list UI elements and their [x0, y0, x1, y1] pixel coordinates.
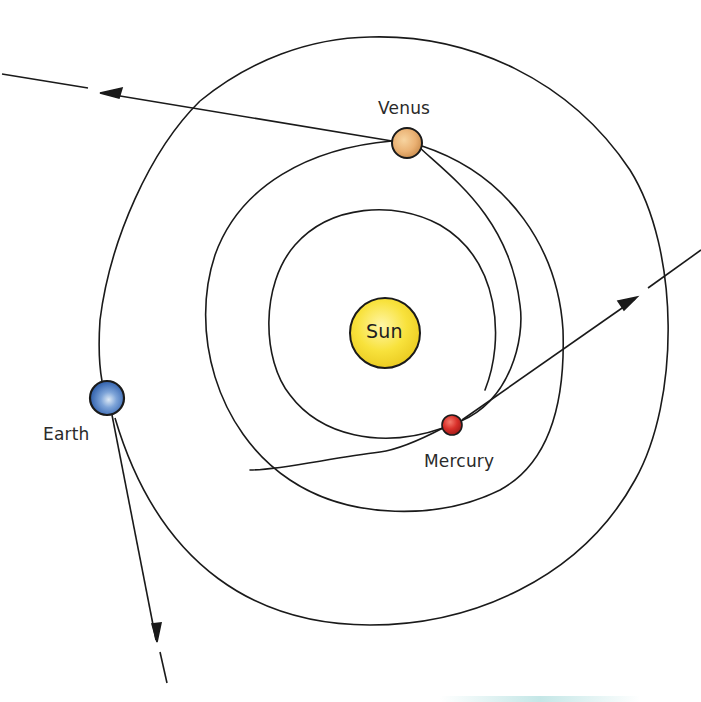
arrow-down-icon — [152, 623, 161, 642]
mercury-icon — [442, 415, 462, 435]
middle-spiral-segment — [420, 148, 521, 421]
venus-escape-trajectory — [2, 74, 392, 141]
earth-ring-upper — [99, 101, 200, 381]
earth-label: Earth — [43, 424, 90, 444]
middle-spiral-lower — [250, 428, 443, 470]
venus — [392, 128, 422, 158]
venus-label: Venus — [378, 98, 430, 118]
scan-edge-tint — [440, 696, 640, 702]
earth-escape-trajectory — [112, 415, 167, 683]
mercury-label: Mercury — [424, 451, 494, 471]
sun-label: Sun — [366, 320, 403, 342]
mercury — [442, 415, 462, 435]
venus-icon — [392, 128, 422, 158]
earth — [90, 381, 124, 415]
earth-icon — [90, 381, 124, 415]
orbit-diagram — [0, 0, 701, 702]
mercury-escape-trajectory — [462, 250, 701, 420]
arrow-left-icon — [100, 88, 122, 98]
